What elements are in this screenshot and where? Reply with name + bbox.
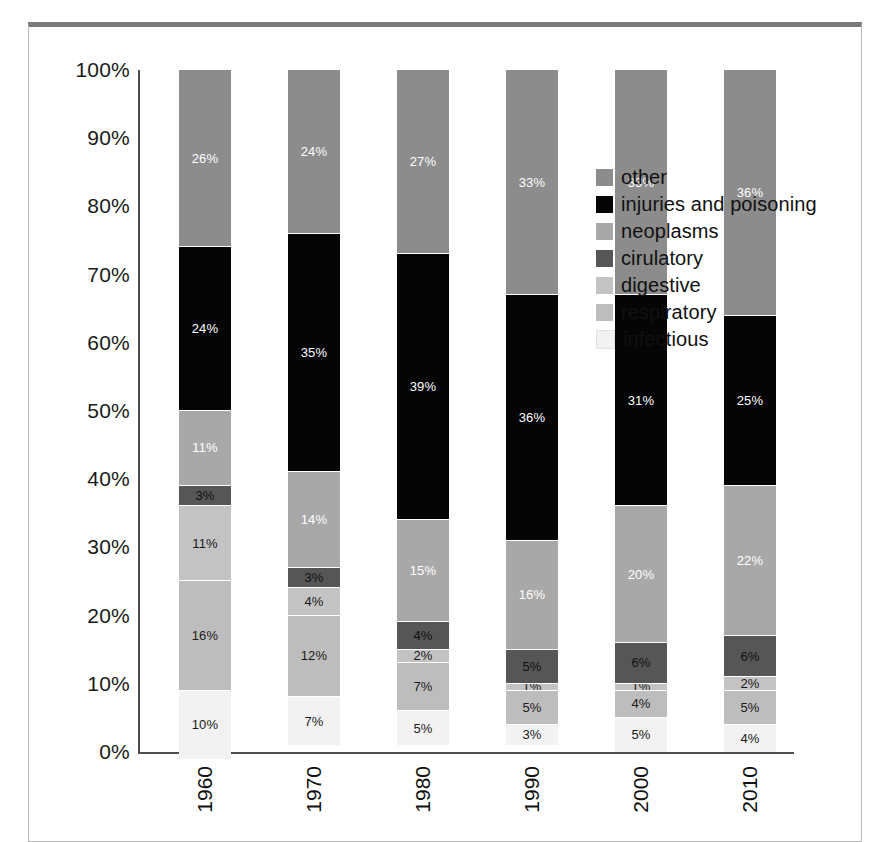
segment-2010-neoplasms[interactable]: 22% <box>724 486 776 636</box>
segment-2000-digestive[interactable]: 1% <box>615 684 667 691</box>
legend-swatch-icon <box>596 250 613 267</box>
segment-value-label: 6% <box>631 656 650 669</box>
segment-value-label: 4% <box>304 595 323 608</box>
segment-1970-infectious[interactable]: 7% <box>288 697 340 745</box>
segment-2000-respiratory[interactable]: 4% <box>615 691 667 718</box>
segment-value-label: 7% <box>304 715 323 728</box>
segment-value-label: 25% <box>737 394 764 407</box>
y-axis-tick-60: 60% <box>54 331 130 355</box>
x-axis-tick-1970: 1970 <box>288 762 340 832</box>
x-axis-tick-label: 2000 <box>629 766 653 813</box>
segment-value-label: 39% <box>410 380 437 393</box>
segment-value-label: 16% <box>519 588 546 601</box>
y-axis-tick-50: 50% <box>54 399 130 423</box>
y-axis-tick-30: 30% <box>54 535 130 559</box>
segment-value-label: 5% <box>413 722 432 735</box>
legend-item-infectious[interactable]: infectious <box>596 326 817 353</box>
segment-1980-cirulatory[interactable]: 4% <box>397 622 449 649</box>
bar-1980[interactable]: 27%39%15%4%2%7%5% <box>397 70 449 752</box>
segment-1980-infectious[interactable]: 5% <box>397 711 449 745</box>
y-axis-tick-80: 80% <box>54 194 130 218</box>
segment-1980-respiratory[interactable]: 7% <box>397 663 449 711</box>
legend-item-neoplasms[interactable]: neoplasms <box>596 218 817 245</box>
segment-1960-digestive[interactable]: 11% <box>179 506 231 581</box>
y-axis-tick-40: 40% <box>54 467 130 491</box>
segment-value-label: 7% <box>413 680 432 693</box>
segment-1960-injuries-and-poisoning[interactable]: 24% <box>179 247 231 411</box>
segment-1990-digestive[interactable]: 1% <box>506 684 558 691</box>
segment-1970-neoplasms[interactable]: 14% <box>288 472 340 567</box>
segment-2010-cirulatory[interactable]: 6% <box>724 636 776 677</box>
x-axis-tick-label: 1980 <box>411 766 435 813</box>
x-axis-tick-label: 1970 <box>302 766 326 813</box>
segment-1960-other[interactable]: 26% <box>179 70 231 247</box>
legend-item-other[interactable]: other <box>596 164 817 191</box>
bar-1960[interactable]: 26%24%11%3%11%16%10% <box>179 70 231 752</box>
legend-swatch-icon <box>596 304 613 321</box>
segment-1980-injuries-and-poisoning[interactable]: 39% <box>397 254 449 520</box>
segment-1980-digestive[interactable]: 2% <box>397 650 449 664</box>
x-axis-tick-2000: 2000 <box>615 762 667 832</box>
chart-legend: otherinjuries and poisoningneoplasmsciru… <box>596 164 817 353</box>
segment-1970-digestive[interactable]: 4% <box>288 588 340 615</box>
segment-1960-cirulatory[interactable]: 3% <box>179 486 231 506</box>
legend-item-respiratory[interactable]: respiratory <box>596 299 817 326</box>
segment-value-label: 1% <box>631 684 650 691</box>
x-axis-tick-1990: 1990 <box>506 762 558 832</box>
legend-label: respiratory <box>621 301 717 324</box>
segment-1990-respiratory[interactable]: 5% <box>506 691 558 725</box>
bar-1970[interactable]: 24%35%14%3%4%12%7% <box>288 70 340 752</box>
segment-1960-respiratory[interactable]: 16% <box>179 581 231 690</box>
segment-1990-other[interactable]: 33% <box>506 70 558 295</box>
segment-1970-respiratory[interactable]: 12% <box>288 616 340 698</box>
segment-1960-infectious[interactable]: 10% <box>179 691 231 759</box>
segment-1990-neoplasms[interactable]: 16% <box>506 541 558 650</box>
segment-2010-digestive[interactable]: 2% <box>724 677 776 691</box>
segment-1970-injuries-and-poisoning[interactable]: 35% <box>288 234 340 473</box>
segment-value-label: 35% <box>301 346 328 359</box>
y-axis-tick-100: 100% <box>54 58 130 82</box>
legend-swatch-icon <box>596 277 613 294</box>
legend-item-digestive[interactable]: digestive <box>596 272 817 299</box>
y-axis-tick-90: 90% <box>54 126 130 150</box>
segment-value-label: 5% <box>522 660 541 673</box>
segment-value-label: 11% <box>192 441 218 454</box>
segment-1960-neoplasms[interactable]: 11% <box>179 411 231 486</box>
segment-1970-other[interactable]: 24% <box>288 70 340 234</box>
segment-1980-other[interactable]: 27% <box>397 70 449 254</box>
segment-value-label: 10% <box>192 718 219 731</box>
x-axis-tick-label: 2010 <box>738 766 762 813</box>
segment-1990-infectious[interactable]: 3% <box>506 725 558 745</box>
segment-2010-infectious[interactable]: 4% <box>724 725 776 752</box>
segment-2010-respiratory[interactable]: 5% <box>724 691 776 725</box>
segment-value-label: 5% <box>631 728 650 741</box>
legend-label: infectious <box>623 328 709 351</box>
y-axis-tick-0: 0% <box>54 740 130 764</box>
segment-value-label: 22% <box>737 554 764 567</box>
segment-value-label: 2% <box>740 677 759 690</box>
legend-item-injuries-and-poisoning[interactable]: injuries and poisoning <box>596 191 817 218</box>
segment-1990-cirulatory[interactable]: 5% <box>506 650 558 684</box>
segment-2000-neoplasms[interactable]: 20% <box>615 506 667 642</box>
legend-item-cirulatory[interactable]: cirulatory <box>596 245 817 272</box>
bar-1990[interactable]: 33%36%16%5%1%5%3% <box>506 70 558 752</box>
segment-value-label: 6% <box>740 650 759 663</box>
x-axis-line <box>138 752 794 754</box>
segment-value-label: 20% <box>628 568 655 581</box>
segment-value-label: 36% <box>519 411 546 424</box>
segment-2000-cirulatory[interactable]: 6% <box>615 643 667 684</box>
segment-2000-infectious[interactable]: 5% <box>615 718 667 752</box>
legend-label: injuries and poisoning <box>621 193 817 216</box>
segment-value-label: 16% <box>192 629 219 642</box>
segment-1970-cirulatory[interactable]: 3% <box>288 568 340 588</box>
segment-value-label: 24% <box>301 145 328 158</box>
segment-1980-neoplasms[interactable]: 15% <box>397 520 449 622</box>
segment-value-label: 4% <box>740 732 759 745</box>
segment-value-label: 33% <box>519 176 546 189</box>
segment-value-label: 31% <box>628 394 655 407</box>
x-axis-tick-label: 1960 <box>193 766 217 813</box>
legend-swatch-icon <box>596 196 613 213</box>
segment-1990-injuries-and-poisoning[interactable]: 36% <box>506 295 558 541</box>
y-axis-tick-labels: 0%10%20%30%40%50%60%70%80%90%100% <box>48 0 130 813</box>
